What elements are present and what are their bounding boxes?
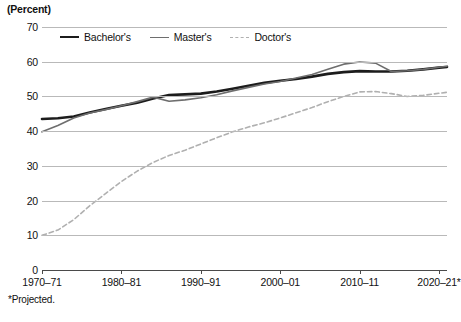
legend-item-bachelors[interactable]: Bachelor's	[60, 31, 131, 43]
x-axis-tick-mark	[280, 270, 281, 274]
x-axis-tick-label: 1990–91	[181, 276, 220, 288]
legend-label: Bachelor's	[84, 31, 131, 43]
x-axis-tick-label: 2000–01	[260, 276, 299, 288]
x-axis-tick-mark	[42, 270, 43, 274]
x-axis-tick-label: 1980–81	[102, 276, 141, 288]
x-axis-tick-mark	[439, 270, 440, 274]
footnote-projected: *Projected.	[8, 294, 55, 305]
y-axis-unit-label: (Percent)	[7, 3, 51, 15]
x-axis-tick-labels: 1970–711980–811990–912000–012010–112020–…	[42, 270, 447, 300]
gridline	[42, 201, 447, 202]
y-axis-tick-label: 30	[8, 160, 38, 172]
y-axis-tick-label: 10	[8, 229, 38, 241]
gridline	[42, 131, 447, 132]
x-axis-tick-label: 2020–21*	[417, 276, 460, 288]
x-axis-tick-label: 2010–11	[340, 276, 379, 288]
legend-item-masters[interactable]: Master's	[150, 31, 212, 43]
y-axis-tick-labels: 010203040506070	[0, 27, 38, 270]
legend-swatch-bachelors-icon	[60, 36, 79, 38]
legend-swatch-masters-icon	[150, 37, 169, 38]
legend-item-doctors[interactable]: Doctor's	[230, 31, 291, 43]
gridline	[42, 166, 447, 167]
legend-swatch-doctors-icon	[230, 37, 249, 38]
x-axis-tick-mark	[360, 270, 361, 274]
y-axis-tick-label: 0	[8, 264, 38, 276]
series-line-doctor-s	[42, 92, 447, 236]
legend: Bachelor'sMaster'sDoctor's	[60, 31, 291, 43]
y-axis-tick-label: 20	[8, 195, 38, 207]
y-axis-tick-label: 70	[8, 21, 38, 33]
y-axis-tick-label: 40	[8, 125, 38, 137]
x-axis-tick-mark	[121, 270, 122, 274]
x-axis-tick-label: 1970–71	[22, 276, 61, 288]
gridline	[42, 62, 447, 63]
gridline	[42, 27, 447, 28]
legend-label: Doctor's	[254, 31, 291, 43]
plot-area	[42, 27, 447, 270]
series-layer	[42, 27, 447, 270]
legend-label: Master's	[174, 31, 212, 43]
y-axis-tick-label: 60	[8, 56, 38, 68]
gridline	[42, 96, 447, 97]
gridline	[42, 235, 447, 236]
x-axis-tick-mark	[201, 270, 202, 274]
y-axis-tick-label: 50	[8, 90, 38, 102]
